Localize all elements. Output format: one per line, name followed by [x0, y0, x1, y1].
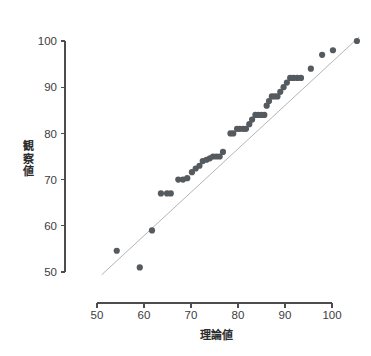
- y-axis-title-char: 観: [23, 139, 34, 153]
- x-tick-label: 90: [279, 309, 292, 321]
- data-point: [330, 47, 336, 53]
- y-tick-label: 60: [44, 220, 57, 232]
- data-point: [261, 112, 267, 118]
- y-tick-label: 100: [38, 35, 57, 47]
- data-point: [354, 38, 360, 44]
- axis-ticks: [61, 41, 333, 308]
- y-tick-label: 80: [44, 128, 57, 140]
- data-point: [220, 149, 226, 155]
- x-tick-label: 80: [232, 309, 245, 321]
- data-point: [168, 190, 174, 196]
- data-points: [114, 38, 360, 271]
- data-point: [149, 227, 155, 233]
- data-point: [184, 175, 190, 181]
- data-point: [158, 190, 164, 196]
- x-tick-label: 60: [138, 309, 151, 321]
- x-tick-label: 100: [322, 309, 341, 321]
- y-axis-title-char: 値: [22, 164, 34, 178]
- x-axis-title: 理論値: [200, 328, 233, 342]
- qq-plot-figure: 50607080901005060708090100 理論値観察値: [0, 0, 371, 356]
- identity-reference-line: [102, 37, 360, 275]
- data-point: [319, 52, 325, 58]
- data-point: [137, 264, 143, 270]
- reference-line: [102, 37, 360, 275]
- data-point: [114, 248, 120, 254]
- axis-titles: 理論値観察値: [22, 139, 234, 342]
- data-point: [298, 75, 304, 81]
- y-axis-title-char: 察: [23, 152, 35, 166]
- y-tick-label: 50: [44, 266, 57, 278]
- screenshot-root: 50607080901005060708090100 理論値観察値: [0, 0, 371, 356]
- y-tick-label: 70: [44, 174, 57, 186]
- x-tick-label: 50: [91, 309, 104, 321]
- plot-canvas: 50607080901005060708090100 理論値観察値: [0, 0, 371, 356]
- x-tick-label: 70: [185, 309, 198, 321]
- y-tick-label: 90: [44, 81, 57, 93]
- data-point: [308, 66, 314, 72]
